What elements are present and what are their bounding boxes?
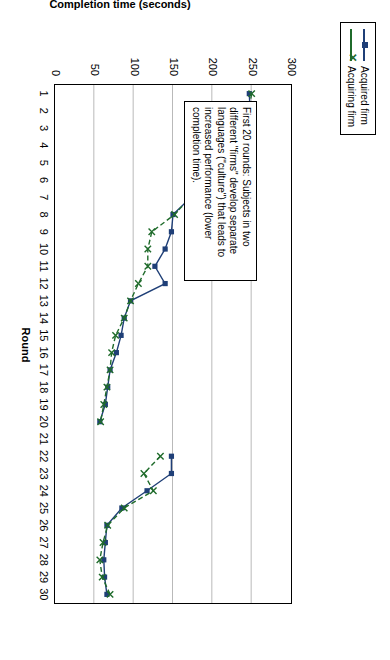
y-tick: 50: [89, 46, 101, 76]
x-tick: 5: [38, 154, 50, 172]
x-tick: 1: [38, 85, 50, 103]
x-tick: 2: [38, 102, 50, 120]
x-tick: 9: [38, 223, 50, 241]
chart-figure: Acquired firm ✕ Acquiring firm First 20 …: [0, 0, 390, 660]
x-tick: 16: [38, 344, 50, 362]
x-tick: 13: [38, 292, 50, 310]
legend-item-acquired: Acquired firm: [358, 29, 371, 127]
x-tick: 30: [38, 585, 50, 603]
legend-marker-square: [359, 29, 370, 61]
x-tick: 8: [38, 206, 50, 224]
x-tick: 3: [38, 119, 50, 137]
y-tick: 150: [168, 46, 180, 76]
plot-area: First 20 rounds: Subjects in two differe…: [54, 84, 292, 604]
x-tick: 25: [38, 499, 50, 517]
x-tick: 7: [38, 188, 50, 206]
x-tick: 23: [38, 465, 50, 483]
x-tick: 15: [38, 326, 50, 344]
x-tick: 19: [38, 395, 50, 413]
y-tick: 250: [247, 46, 259, 76]
y-tick: 0: [50, 46, 62, 76]
x-tick: 26: [38, 516, 50, 534]
x-axis-title: Round: [20, 85, 32, 605]
x-tick: 18: [38, 378, 50, 396]
x-tick: 14: [38, 309, 50, 327]
x-tick: 21: [38, 430, 50, 448]
x-tick: 12: [38, 275, 50, 293]
x-tick: 24: [38, 482, 50, 500]
x-tick: 17: [38, 361, 50, 379]
y-axis-title: Completion time (seconds): [0, 0, 240, 10]
legend-label-acquired: Acquired firm: [358, 66, 371, 125]
x-tick: 27: [38, 534, 50, 552]
x-tick: 4: [38, 136, 50, 154]
x-tick: 28: [38, 551, 50, 569]
annotation-box: First 20 rounds: Subjects in two differe…: [185, 101, 258, 281]
x-tick: 10: [38, 240, 50, 258]
x-tick: 11: [38, 257, 50, 275]
x-tick: 6: [38, 171, 50, 189]
legend-marker-x: ✕: [346, 29, 357, 61]
y-tick: 300: [286, 46, 298, 76]
x-tick: 29: [38, 568, 50, 586]
y-tick: 100: [129, 46, 141, 76]
x-tick: 22: [38, 447, 50, 465]
chart-legend: Acquired firm ✕ Acquiring firm: [340, 22, 376, 135]
x-tick: 20: [38, 413, 50, 431]
legend-item-acquiring: ✕ Acquiring firm: [345, 29, 358, 127]
legend-label-acquiring: Acquiring firm: [345, 66, 358, 127]
y-tick: 200: [207, 46, 219, 76]
